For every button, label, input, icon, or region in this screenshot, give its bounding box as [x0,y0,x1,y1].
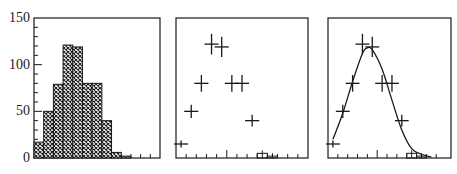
ytick-label-50: 50 [0,103,30,119]
histogram-bar [63,45,73,158]
histogram-bar [102,121,112,158]
histogram-bar [34,142,44,158]
data-point [356,34,370,55]
data-point [194,75,208,92]
histogram-bar [121,156,131,158]
histogram-bar [73,47,83,158]
histogram-bar [53,84,63,158]
data-point [235,75,249,92]
ytick-label-0: 0 [0,150,30,166]
histogram-bar [82,83,92,158]
histogram-panel [34,18,160,158]
data-point [346,75,360,92]
data-point [365,37,379,57]
histogram-bar [112,152,122,158]
data-point [245,115,259,127]
histogram-bar [44,111,54,158]
ytick-label-150: 150 [0,10,30,26]
figure: 150 100 50 0 [0,0,457,174]
data-point [336,105,350,118]
fit-curve [333,47,431,157]
chart-canvas [0,0,457,174]
data-point [257,150,267,158]
fit-panel [326,18,451,158]
data-point [204,34,218,55]
points-panel [174,18,308,158]
ytick-label-100: 100 [0,57,30,73]
data-point [385,75,399,92]
data-point [267,153,277,158]
histogram-bar [92,83,102,158]
data-point [215,37,229,57]
data-point [184,105,198,118]
plot-frame [328,18,451,158]
